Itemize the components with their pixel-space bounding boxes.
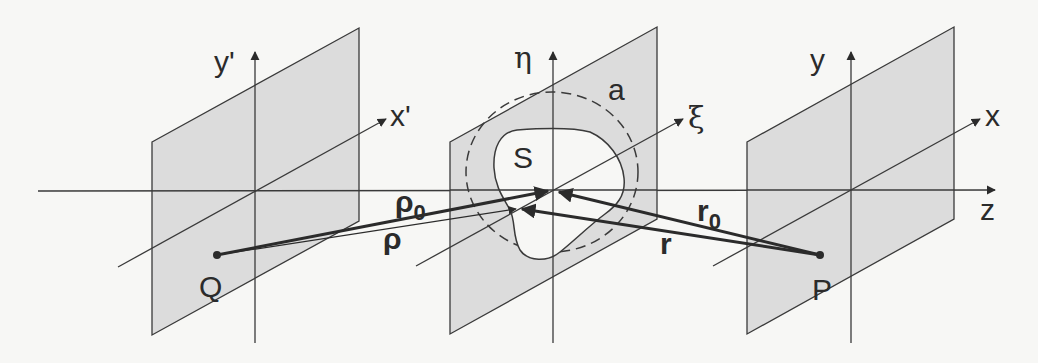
vector-rho-label: ρ	[383, 222, 402, 255]
vector-r-label: r	[660, 227, 672, 260]
aperture-s-label: S	[513, 141, 533, 174]
vector-r0-base: r	[697, 194, 709, 227]
vector-r0-subscript: 0	[709, 209, 721, 234]
source-y-axis-label: y'	[214, 45, 235, 78]
aperture-eta-label: η	[514, 40, 532, 75]
vector-rho0-subscript: 0	[414, 200, 426, 225]
observation-y-axis-label: y	[810, 43, 825, 76]
observation-plane: y x	[713, 27, 1000, 343]
aperture-plane: η ξ a S	[416, 27, 705, 343]
point-p	[816, 251, 824, 259]
source-plane: y' x'	[118, 28, 411, 343]
source-x-axis-label: x'	[390, 99, 411, 132]
optical-axis-z-label: z	[980, 193, 995, 226]
diffraction-geometry-diagram: y' x' η ξ a S y x z	[0, 0, 1038, 363]
vector-rho0-base: ρ	[395, 185, 414, 218]
observation-x-axis-label: x	[985, 99, 1000, 132]
aperture-radius-label: a	[608, 73, 625, 106]
point-q	[213, 251, 221, 259]
aperture-xi-label: ξ	[688, 100, 705, 135]
vector-r0-label: r0	[697, 194, 721, 234]
point-q-label: Q	[199, 270, 222, 303]
point-p-label: P	[812, 273, 832, 306]
